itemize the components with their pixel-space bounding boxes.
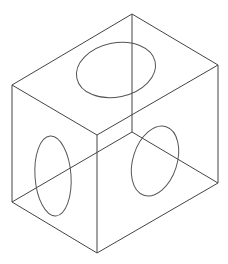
edge-top-back-to-top-right — [132, 14, 218, 65]
edge-bottom-back-to-bottom-right — [132, 132, 218, 183]
box-holes — [32, 35, 187, 217]
box-edges — [12, 14, 218, 253]
edge-bottom-back-to-bottom-left — [12, 132, 132, 202]
edge-bottom-left-to-bottom-front — [12, 202, 97, 253]
box-diagram — [0, 0, 228, 264]
left-face-hole — [32, 135, 73, 217]
edge-top-right-to-top-front — [97, 65, 218, 135]
edge-top-back-to-top-left — [12, 14, 132, 85]
top-face-hole — [71, 35, 160, 104]
edge-top-left-to-top-front — [12, 85, 97, 135]
